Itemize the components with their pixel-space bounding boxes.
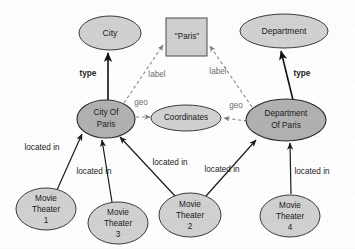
edge-label-located-in-3: located in (76, 167, 111, 176)
edge-label-geo-department: geo (229, 101, 243, 110)
edge-label-department (210, 46, 252, 107)
node-department-of-paris[interactable]: Department Of Paris (246, 99, 326, 141)
node-label-mt2-line1: Movie (179, 200, 201, 209)
edge-line (290, 143, 291, 194)
edge-geo-department (224, 118, 247, 121)
node-label-mt4-line2: Theater (276, 212, 304, 221)
edge-label-type-city: type (80, 69, 97, 78)
node-city-class[interactable]: City (79, 16, 141, 50)
node-shape-ellipse (246, 99, 326, 141)
node-label-mt3-line2: Theater (104, 219, 132, 228)
node-label-department: Department (262, 26, 308, 36)
node-shape-ellipse (77, 100, 135, 138)
node-label-mt3-line1: Movie (107, 208, 129, 217)
node-label-mt1-line1: Movie (35, 194, 57, 203)
edge-type-department (281, 51, 293, 100)
edge-label-label-city: label (148, 70, 165, 79)
edge-located-in-1 (57, 134, 82, 190)
node-coordinates[interactable]: Coordinates (151, 105, 221, 131)
node-label-mt4-line3: 4 (288, 223, 293, 232)
edge-label-label-department: label (209, 67, 226, 76)
edge-label-located-in-1: located in (24, 143, 59, 152)
edge-line (281, 51, 293, 100)
node-label-mt4-line1: Movie (279, 201, 301, 210)
node-city-of-paris[interactable]: City Of Paris (77, 100, 135, 138)
node-movie-theater-4[interactable]: Movie Theater 4 (260, 195, 320, 237)
node-label-city: City (103, 28, 119, 38)
node-label-city-of-paris-line1: City Of (93, 108, 119, 117)
node-label-mt1-line2: Theater (32, 205, 60, 214)
node-department-class[interactable]: Department (240, 14, 328, 48)
node-label-mt3-line3: 3 (116, 230, 121, 239)
edge-label-located-in-2-department: located in (204, 165, 239, 174)
node-movie-theater-3[interactable]: Movie Theater 3 (88, 202, 148, 244)
node-label-mt1-line3: 1 (44, 216, 49, 225)
edge-label-located-in-2-city: located in (152, 158, 187, 167)
node-label-mt2-line3: 2 (188, 222, 193, 231)
node-movie-theater-2[interactable]: Movie Theater 2 (159, 193, 221, 237)
node-label-city-of-paris-line2: Paris (97, 120, 116, 129)
node-label-department-of-paris-line1: Department (265, 109, 309, 118)
edge-label-type-department: type (294, 69, 311, 78)
rdf-graph: City "Paris" Department City Of Paris Co… (0, 0, 355, 249)
edge-line (224, 118, 247, 121)
node-label-coordinates: Coordinates (164, 113, 208, 122)
edge-label-located-in-4: located in (294, 167, 329, 176)
edge-label-geo-city: geo (134, 98, 148, 107)
node-label-mt2-line2: Theater (176, 211, 204, 220)
node-paris-literal[interactable]: "Paris" (166, 18, 207, 56)
diagram-canvas: City "Paris" Department City Of Paris Co… (0, 0, 355, 249)
node-movie-theater-1[interactable]: Movie Theater 1 (16, 188, 76, 230)
edge-located-in-4 (290, 143, 291, 194)
edge-line (57, 134, 82, 190)
node-label-paris-literal: "Paris" (175, 32, 200, 41)
node-label-department-of-paris-line2: Of Paris (271, 121, 301, 130)
edge-line (210, 46, 252, 107)
